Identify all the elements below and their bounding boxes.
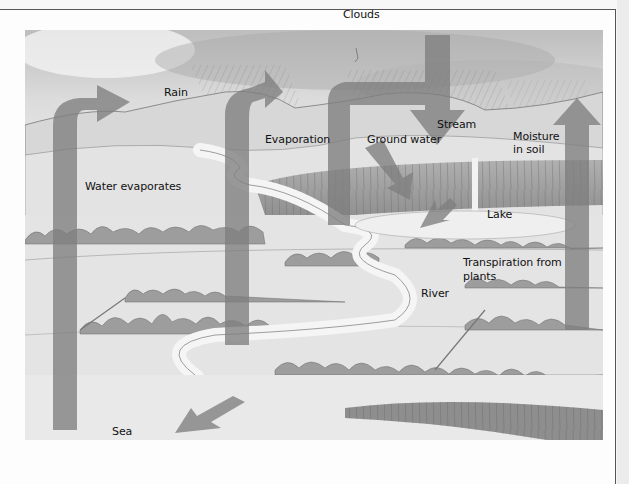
water-cycle-illustration [25, 30, 603, 440]
label-rain: Rain [164, 86, 188, 99]
label-transpiration-line1: Transpiration from [463, 256, 562, 269]
label-stream: Stream [437, 118, 476, 131]
water-cycle-drawing [25, 30, 603, 440]
label-sea: Sea [112, 425, 132, 438]
label-ground-water: Ground water [367, 133, 441, 146]
label-moisture-in-soil-line1: Moisture [513, 130, 560, 143]
label-clouds: Clouds [343, 8, 380, 21]
label-transpiration-line2: plants [463, 270, 496, 283]
label-water-evaporates: Water evaporates [85, 180, 181, 193]
label-river: River [421, 287, 449, 300]
label-evaporation: Evaporation [265, 133, 330, 146]
page-edge [617, 0, 629, 484]
label-moisture-in-soil-line2: in soil [513, 143, 544, 156]
label-lake: Lake [487, 208, 512, 221]
